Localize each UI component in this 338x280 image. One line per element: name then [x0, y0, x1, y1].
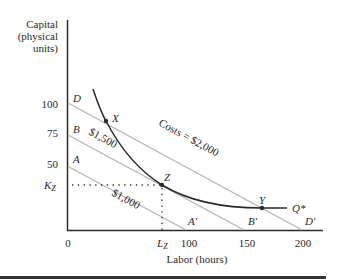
y-tick-75: 75	[47, 127, 59, 139]
y-tick-kz: KZ	[43, 179, 56, 193]
label-d-prime: D′	[304, 215, 316, 227]
point-x	[104, 119, 108, 123]
point-y	[260, 206, 264, 210]
x-axis-title: Labor (hours)	[167, 253, 228, 266]
isocost-isoquant-chart: Capital (physical units) 100 75 50 KZ 0 …	[0, 0, 338, 280]
x-tick-0: 0	[65, 237, 71, 249]
label-cost-1000: $1,000	[110, 186, 143, 211]
x-tick-200: 200	[295, 237, 312, 249]
label-d: D	[72, 92, 81, 104]
label-x: X	[111, 112, 120, 124]
y-tick-100: 100	[42, 98, 59, 110]
label-q-star: Q*	[292, 202, 306, 214]
label-a-prime: A′	[187, 215, 198, 227]
label-b-prime: B′	[248, 215, 258, 227]
y-tick-50: 50	[47, 158, 59, 170]
isocost-line-2000	[68, 103, 302, 230]
bottom-rule	[0, 276, 326, 279]
y-axis-title-1: Capital	[26, 18, 58, 30]
x-tick-lz: LZ	[156, 237, 168, 251]
label-z: Z	[164, 171, 171, 183]
label-b: B	[73, 123, 80, 135]
y-axis-title-3: units)	[33, 42, 58, 55]
x-tick-100: 100	[181, 237, 198, 249]
x-tick-150: 150	[239, 237, 256, 249]
label-y: Y	[259, 194, 267, 206]
label-cost-2000: Costs = $2,000	[157, 116, 222, 158]
label-a: A	[72, 153, 80, 165]
point-z	[160, 183, 164, 187]
